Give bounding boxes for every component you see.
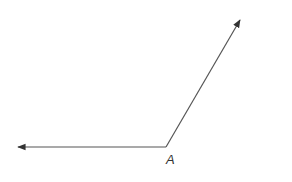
vertex-label: A <box>165 152 175 167</box>
upper-right-ray <box>166 20 240 147</box>
angle-diagram: A <box>0 0 292 182</box>
